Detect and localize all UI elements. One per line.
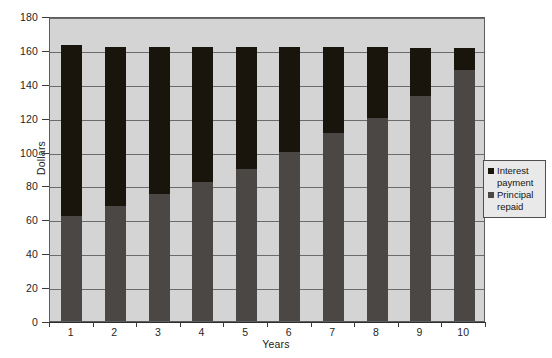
bar-group[interactable] [410, 16, 431, 321]
x-axis-tick [311, 322, 312, 327]
bar-segment-interest-payment[interactable] [105, 47, 126, 206]
bar-group[interactable] [105, 16, 126, 321]
bar-segment-principal-repaid[interactable] [279, 152, 300, 321]
legend-item[interactable]: Interestpayment [488, 165, 542, 188]
x-axis-title: Years [0, 338, 552, 350]
x-axis-tick [267, 322, 268, 327]
legend-swatch-icon [488, 192, 494, 198]
x-axis-tick-label: 4 [187, 326, 217, 338]
y-axis-tick-label: 60 [0, 215, 38, 225]
bar-segment-interest-payment[interactable] [410, 48, 431, 95]
y-axis-tick [42, 51, 49, 52]
y-axis-tick [42, 153, 49, 154]
y-axis-tick [42, 220, 49, 221]
chart-legend: InterestpaymentPrincipalrepaid [483, 160, 546, 218]
bar-group[interactable] [192, 16, 213, 321]
y-axis-tick [42, 186, 49, 187]
y-axis-tick [42, 85, 49, 86]
x-axis-tick-label: 5 [230, 326, 260, 338]
bar-segment-interest-payment[interactable] [454, 48, 475, 70]
bar-group[interactable] [279, 16, 300, 321]
bar-group[interactable] [236, 16, 257, 321]
plot-inner [50, 18, 484, 321]
bar-segment-interest-payment[interactable] [279, 47, 300, 152]
y-axis-tick-label: 120 [0, 114, 38, 124]
legend-label-continued: repaid [497, 201, 542, 213]
y-axis-tick-label: 20 [0, 283, 38, 293]
x-axis-tick [49, 322, 50, 327]
y-axis-tick [42, 17, 49, 18]
y-axis-tick-label: 100 [0, 148, 38, 158]
x-axis-tick-label: 2 [99, 326, 129, 338]
x-axis-tick-label: 7 [317, 326, 347, 338]
x-axis-tick-label: 9 [405, 326, 435, 338]
y-axis-tick-label: 160 [0, 46, 38, 56]
bar-segment-principal-repaid[interactable] [105, 206, 126, 321]
bar-group[interactable] [149, 16, 170, 321]
y-axis-tick-label: 0 [0, 317, 38, 327]
x-axis-tick-label: 8 [361, 326, 391, 338]
bar-segment-interest-payment[interactable] [367, 47, 388, 118]
legend-label: Principal [497, 189, 542, 201]
x-axis-tick-label: 6 [274, 326, 304, 338]
bar-group[interactable] [61, 16, 82, 321]
bar-segment-interest-payment[interactable] [61, 45, 82, 216]
y-axis-tick-label: 140 [0, 80, 38, 90]
legend-label-continued: payment [497, 177, 542, 189]
bar-segment-principal-repaid[interactable] [61, 216, 82, 321]
x-axis-tick-label: 10 [448, 326, 478, 338]
bar-group[interactable] [367, 16, 388, 321]
bar-segment-principal-repaid[interactable] [149, 194, 170, 321]
y-axis-tick-label: 40 [0, 249, 38, 259]
legend-swatch-icon [488, 168, 494, 174]
bar-group[interactable] [454, 16, 475, 321]
bar-group[interactable] [323, 16, 344, 321]
x-axis-tick [93, 322, 94, 327]
bar-segment-principal-repaid[interactable] [454, 70, 475, 321]
y-axis-tick [42, 288, 49, 289]
bar-segment-interest-payment[interactable] [323, 47, 344, 133]
bar-segment-interest-payment[interactable] [236, 47, 257, 169]
x-axis-tick [354, 322, 355, 327]
x-axis-tick-label: 1 [56, 326, 86, 338]
bar-segment-interest-payment[interactable] [149, 47, 170, 194]
x-axis-tick [398, 322, 399, 327]
bar-segment-principal-repaid[interactable] [236, 169, 257, 322]
bar-segment-principal-repaid[interactable] [323, 133, 344, 321]
x-axis-tick [180, 322, 181, 327]
y-axis-tick-label: 80 [0, 181, 38, 191]
legend-item[interactable]: Principalrepaid [488, 189, 542, 212]
stacked-bar-chart-figure: Dollars 020406080100120140160180 1234567… [0, 0, 552, 358]
x-axis-tick-label: 3 [143, 326, 173, 338]
y-axis-tick [42, 119, 49, 120]
y-axis-tick-label: 180 [0, 12, 38, 22]
x-axis-tick [136, 322, 137, 327]
y-axis-tick [42, 254, 49, 255]
x-axis-tick [485, 322, 486, 327]
legend-label: Interest [497, 165, 542, 177]
y-axis-tick [42, 322, 49, 323]
bar-segment-principal-repaid[interactable] [192, 182, 213, 321]
x-axis-tick [223, 322, 224, 327]
bar-segment-principal-repaid[interactable] [410, 96, 431, 321]
plot-area [49, 17, 485, 322]
bar-segment-interest-payment[interactable] [192, 47, 213, 183]
bar-segment-principal-repaid[interactable] [367, 118, 388, 321]
x-axis-tick [441, 322, 442, 327]
